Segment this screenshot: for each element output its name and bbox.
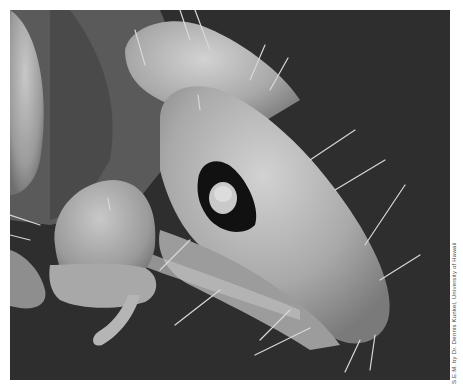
sem-photograph <box>10 10 450 380</box>
lower-left-limb <box>10 250 45 308</box>
photo-credit: S.E.M. by Dr. Dennis Kunkel, University … <box>451 264 457 384</box>
front-leg-segment <box>49 263 156 307</box>
specimen-illustration <box>10 10 450 380</box>
